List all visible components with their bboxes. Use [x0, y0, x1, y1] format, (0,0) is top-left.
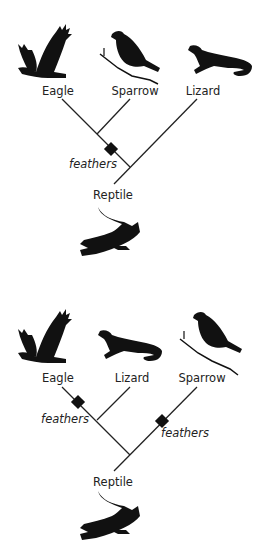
trait-label-feathers: feathers — [69, 157, 117, 171]
taxon-label-eagle: Eagle — [42, 84, 74, 98]
taxon-label-lizard: Lizard — [115, 371, 150, 385]
trait-label-feathers-sparrow: feathers — [161, 426, 209, 440]
cladogram-1: Eagle Sparrow Lizard feathers Reptile — [0, 0, 260, 275]
crocodile-icon — [80, 207, 140, 256]
root-label-reptile: Reptile — [93, 188, 133, 202]
taxon-label-eagle: Eagle — [42, 371, 74, 385]
root-label-reptile: Reptile — [93, 475, 133, 489]
eagle-icon — [18, 309, 72, 363]
eagle-icon — [18, 24, 72, 78]
cladogram-1-graphic — [0, 0, 260, 275]
cladogram-2: Eagle Lizard Sparrow feathers feathers R… — [0, 285, 260, 551]
cladogram-2-graphic — [0, 285, 260, 551]
branches-1 — [62, 99, 197, 184]
lizard-icon — [188, 45, 252, 76]
sparrow-icon — [100, 31, 160, 84]
crocodile-icon — [80, 491, 140, 540]
taxon-label-sparrow: Sparrow — [178, 371, 225, 385]
taxon-label-sparrow: Sparrow — [111, 84, 158, 98]
feathers-marker — [104, 142, 118, 156]
trait-label-feathers-eagle: feathers — [41, 412, 89, 426]
sparrow-icon — [180, 312, 242, 375]
feathers-marker-eagle — [71, 395, 85, 409]
lizard-icon — [98, 330, 162, 361]
taxon-label-lizard: Lizard — [186, 84, 221, 98]
